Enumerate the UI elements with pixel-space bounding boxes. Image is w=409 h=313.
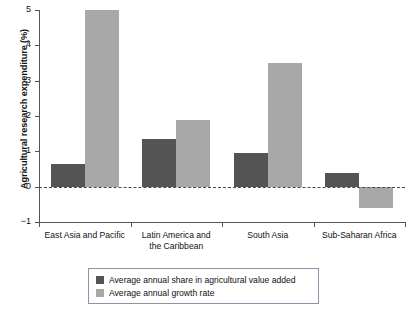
legend-swatch-icon <box>96 276 104 284</box>
y-axis-tick <box>35 45 39 46</box>
x-axis-tick <box>405 222 406 227</box>
plot-area: 543210−1 <box>39 10 405 222</box>
bar <box>325 173 359 187</box>
x-axis-category-label-line: East Asia and Pacific <box>39 230 131 241</box>
x-axis-category-label: Sub-Saharan Africa <box>314 230 406 241</box>
bar <box>85 10 119 187</box>
y-axis-tick-label: 5 <box>0 5 31 14</box>
x-axis-category-label-line: South Asia <box>222 230 314 241</box>
x-axis-category-label-line: the Caribbean <box>131 241 223 252</box>
x-axis-tick <box>131 222 132 227</box>
legend-item-label: Average annual share in agricultural val… <box>109 275 296 285</box>
y-axis-tick <box>35 10 39 11</box>
x-axis-category-label-line: Sub-Saharan Africa <box>314 230 406 241</box>
legend-item[interactable]: Average annual growth rate <box>96 286 312 299</box>
x-axis-category-label: East Asia and Pacific <box>39 230 131 241</box>
y-axis-tick <box>35 116 39 117</box>
y-axis-tick-label: 4 <box>0 40 31 49</box>
bar <box>51 164 85 187</box>
x-axis-category-label: Latin America andthe Caribbean <box>131 230 223 252</box>
x-axis-category-label-line: Latin America and <box>131 230 223 241</box>
bar <box>234 153 268 187</box>
x-axis-tick <box>314 222 315 227</box>
y-axis-tick <box>35 81 39 82</box>
y-axis-tick-label: 0 <box>0 182 31 191</box>
x-axis-tick <box>222 222 223 227</box>
x-axis-tick <box>39 222 40 227</box>
zero-reference-line <box>39 187 405 188</box>
chart-figure: Agricultural research expenditure (%) 54… <box>0 0 409 313</box>
bar <box>176 120 210 187</box>
legend-swatch-icon <box>96 289 104 297</box>
y-axis-tick-label: −1 <box>0 217 31 226</box>
chart-legend: Average annual share in agricultural val… <box>88 268 319 304</box>
y-axis-tick-label: 3 <box>0 76 31 85</box>
y-axis-tick <box>35 151 39 152</box>
y-axis-tick-label: 2 <box>0 111 31 120</box>
legend-item-label: Average annual growth rate <box>109 288 214 298</box>
legend-item[interactable]: Average annual share in agricultural val… <box>96 273 312 286</box>
bar <box>142 139 176 187</box>
y-axis-tick-label: 1 <box>0 146 31 155</box>
bar <box>268 63 302 187</box>
x-axis-category-label: South Asia <box>222 230 314 241</box>
bar <box>359 187 393 208</box>
y-axis-line <box>39 10 40 222</box>
